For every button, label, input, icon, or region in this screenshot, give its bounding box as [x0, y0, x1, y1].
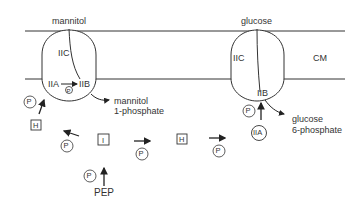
mannitol-iib-label: IIB: [79, 79, 90, 89]
mannitol-iia-label: IIA: [48, 79, 59, 89]
phospho-label-1: P: [27, 97, 32, 107]
glucose-iia-label: IIA: [253, 128, 262, 138]
phospho-label-5: P: [87, 171, 92, 181]
mannitol-iic-label: IIC: [58, 48, 70, 58]
glucose-substrate-label: glucose: [241, 16, 272, 26]
phospho-label-3: P: [139, 149, 144, 159]
phospho-label-4: P: [216, 146, 221, 156]
hpr-label-2: H: [179, 135, 184, 145]
glucose-phospho-label: P: [246, 106, 251, 116]
glucose-product-line2: 6-phosphate: [292, 125, 342, 135]
glucose-product-line1: glucose: [292, 114, 323, 124]
pep-label: PEP: [94, 188, 114, 198]
mannitol-phospho-label: P: [67, 86, 71, 96]
glucose-iic-label: IIC: [233, 53, 245, 63]
mannitol-product-line2: 1-phosphate: [114, 106, 164, 116]
enzyme-i-label: I: [102, 136, 104, 146]
membrane-label: CM: [313, 53, 327, 63]
phospho-label-2: P: [64, 141, 69, 151]
mannitol-product-line1: mannitol: [114, 96, 148, 106]
glucose-iib-label: IIB: [257, 88, 268, 98]
hpr-label-1: H: [33, 121, 38, 131]
glucose-transporter: [231, 29, 284, 141]
mannitol-transporter: [42, 29, 109, 101]
mannitol-substrate-label: mannitol: [52, 16, 86, 26]
pts-diagram-graphic: [0, 0, 364, 208]
